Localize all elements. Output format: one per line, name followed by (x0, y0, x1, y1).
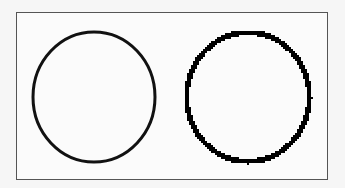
anti-aliased-circle (33, 32, 155, 162)
circles-canvas (0, 0, 345, 188)
aliased-circle (185, 31, 313, 165)
figure (0, 0, 345, 188)
